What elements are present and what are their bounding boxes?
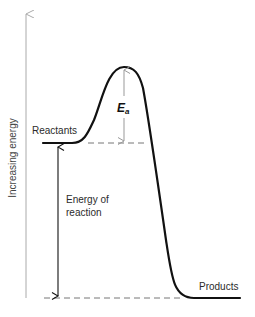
energy-diagram: Increasing energy Ea Reactants Products …	[0, 0, 255, 317]
energy-of-reaction-label-line2: reaction	[66, 207, 102, 218]
products-label: Products	[199, 281, 238, 292]
reaction-curve	[43, 67, 240, 298]
energy-of-reaction-label-line1: Energy of	[66, 194, 109, 205]
reactants-label: Reactants	[32, 125, 77, 136]
axis-label: Increasing energy	[7, 118, 18, 198]
